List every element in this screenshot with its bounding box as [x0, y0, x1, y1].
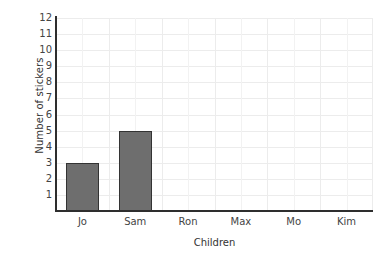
x-axis-title: Children	[56, 237, 373, 248]
x-axis-tick-labels: JoSamRonMaxMoKim	[56, 215, 373, 231]
vertical-gridline	[109, 18, 110, 211]
y-tick-label: 12	[28, 13, 52, 23]
y-tick-label: 4	[28, 142, 52, 152]
vertical-gridline	[347, 18, 348, 211]
y-tick-label: 5	[28, 126, 52, 136]
vertical-gridline	[162, 18, 163, 211]
y-tick-label: 3	[28, 158, 52, 168]
y-tick-label: 1	[28, 190, 52, 200]
x-axis-line	[55, 210, 373, 212]
vertical-gridline	[241, 18, 242, 211]
y-tick-label: 8	[28, 77, 52, 87]
vertical-gridline	[188, 18, 189, 211]
plot-area	[56, 18, 373, 211]
vertical-gridline	[320, 18, 321, 211]
vertical-gridline	[215, 18, 216, 211]
y-tick-label: 10	[28, 45, 52, 55]
x-tick-label: Mo	[267, 215, 320, 229]
vertical-gridline	[294, 18, 295, 211]
bar	[119, 131, 152, 211]
vertical-gridline	[372, 18, 373, 211]
y-tick-label: 7	[28, 93, 52, 103]
y-axis-line	[55, 16, 57, 212]
bar-chart-figure: Number of stickers 121110987654321 JoSam…	[0, 0, 380, 261]
bar	[66, 163, 99, 211]
x-tick-label: Sam	[109, 215, 162, 229]
x-tick-label: Kim	[320, 215, 373, 229]
vertical-gridline	[267, 18, 268, 211]
x-tick-label: Jo	[56, 215, 109, 229]
x-tick-label: Ron	[162, 215, 215, 229]
y-tick-label: 9	[28, 61, 52, 71]
y-tick-label: 2	[28, 174, 52, 184]
y-axis-tick-labels: 121110987654321	[28, 18, 52, 211]
x-tick-label: Max	[215, 215, 268, 229]
y-tick-label: 11	[28, 29, 52, 39]
y-tick-label: 6	[28, 110, 52, 120]
